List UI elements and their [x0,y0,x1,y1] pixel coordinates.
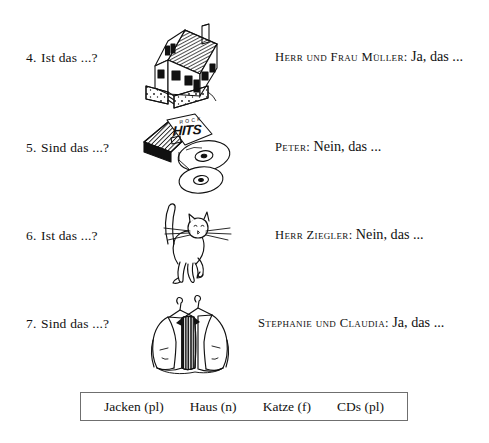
word-bank-item: Jacken (pl) [104,399,164,415]
exercise-row: 7.Sind das ...? [0,288,489,378]
word-bank: Jacken (pl) Haus (n) Katze (f) CDs (pl) [80,392,408,421]
reply-text: Nein, das ... [356,226,424,242]
exercise-prompt: 5.Sind das ...? [26,140,156,156]
exercise-row: 4.Ist das ...? [0,22,489,112]
speaker-name: Stephanie und Claudia: [258,316,389,330]
exercise-prompt-text: Ist das ...? [41,50,98,65]
reply-text: Ja, das ... [392,314,444,330]
exercise-number: 4. [26,50,41,66]
exercise-row: 6.Ist das ...? [0,200,489,290]
exercise-number: 5. [26,140,41,156]
cat-illustration [138,200,242,290]
worksheet-page: 4.Ist das ...? [0,0,489,443]
word-bank-item: CDs (pl) [337,399,384,415]
exercise-number: 7. [26,316,41,332]
exercise-prompt-text: Ist das ...? [41,228,98,243]
reply-text: Nein, das ... [313,138,381,154]
speaker-name: Peter: [275,140,310,154]
exercise-prompt-text: Sind das ...? [41,140,109,155]
cds-illustration: ROCK HITS [138,112,242,202]
exercise-prompt: 4.Ist das ...? [26,50,156,66]
word-bank-item: Haus (n) [190,399,237,415]
answer-line: Herr Ziegler: Nein, das ... [275,226,424,243]
speaker-name: Herr Ziegler: [275,228,352,242]
answer-line: Herr und Frau Müller: Ja, das ... [275,48,463,65]
house-illustration [138,22,242,112]
answer-line: Stephanie und Claudia: Ja, das ... [258,314,444,331]
exercise-prompt: 7.Sind das ...? [26,316,156,332]
reply-text: Ja, das ... [411,48,463,64]
speaker-name: Herr und Frau Müller: [275,50,408,64]
exercise-number: 6. [26,228,41,244]
exercise-row: 5.Sind das ...? [0,112,489,202]
exercise-prompt-text: Sind das ...? [41,316,109,331]
answer-line: Peter: Nein, das ... [275,138,381,155]
exercise-prompt: 6.Ist das ...? [26,228,156,244]
jackets-illustration [138,288,242,378]
word-bank-item: Katze (f) [263,399,311,415]
